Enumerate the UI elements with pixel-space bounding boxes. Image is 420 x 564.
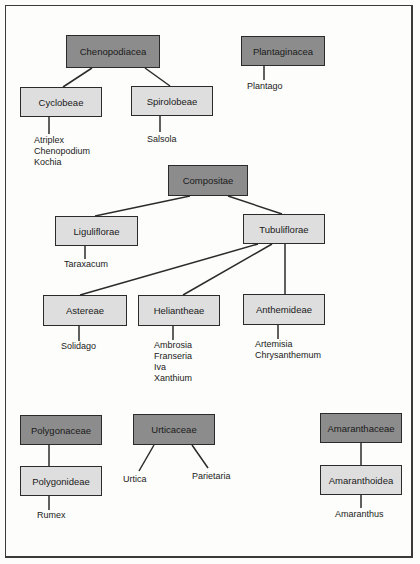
node-astereae: Astereae [43, 295, 127, 326]
genus-label: Chenopodium [34, 146, 90, 157]
node-compositae: Compositae [168, 165, 248, 196]
genera-list-polygonideae: Rumex [37, 510, 66, 521]
node-label: Polygonaceae [31, 425, 91, 436]
genera-list-amaranthoidea: Amaranthus [335, 509, 384, 520]
genus-label: Ambrosia [154, 340, 192, 351]
node-anthemideae: Anthemideae [243, 294, 325, 325]
genus-label: Salsola [147, 134, 177, 145]
node-chenopodiacea: Chenopodiacea [66, 35, 160, 68]
node-label: Compositae [183, 175, 234, 186]
node-spirolobeae: Spirolobeae [131, 86, 213, 116]
genus-urtica: Urtica [123, 474, 147, 485]
node-polygonideae: Polygonideae [20, 466, 102, 496]
node-amaranthoidea: Amaranthoidea [320, 465, 402, 495]
node-label: Astereae [66, 305, 104, 316]
genera-list-anthemideae: Artemisia Chrysanthemum [255, 339, 321, 361]
genus-label: Artemisia [255, 339, 321, 350]
node-label: Amaranthaceae [327, 423, 394, 434]
node-label: Amaranthoidea [329, 475, 393, 486]
genus-label: Xanthium [154, 373, 192, 384]
node-label: Urticaceae [151, 424, 196, 435]
genus-label: Chrysanthemum [255, 350, 321, 361]
node-plantaginacea: Plantaginacea [241, 36, 325, 66]
node-polygonaceae: Polygonaceae [20, 415, 102, 445]
node-label: Plantaginacea [253, 46, 313, 57]
node-label: Liguliflorae [74, 226, 120, 237]
genus-label: Solidago [61, 341, 96, 352]
node-label: Cyclobeae [39, 97, 84, 108]
genus-label: Taraxacum [64, 259, 108, 270]
genus-label: Franseria [154, 351, 192, 362]
genera-list-cyclobeae: Atriplex Chenopodium Kochia [34, 135, 90, 168]
genera-list-plantaginacea: Plantago [247, 81, 283, 92]
genera-list-heliantheae: Ambrosia Franseria Iva Xanthium [154, 340, 192, 384]
genus-label: Iva [154, 362, 192, 373]
genus-label: Amaranthus [335, 509, 384, 520]
genera-list-liguliflorae: Taraxacum [64, 259, 108, 270]
genus-label: Atriplex [34, 135, 90, 146]
node-label: Spirolobeae [147, 96, 198, 107]
node-label: Polygonideae [32, 476, 90, 487]
genera-list-spirolobeae: Salsola [147, 134, 177, 145]
node-liguliflorae: Liguliflorae [55, 216, 138, 246]
genus-label: Urtica [123, 474, 147, 485]
genus-parietaria: Parietaria [192, 471, 231, 482]
node-label: Tubuliflorae [259, 224, 308, 235]
genus-label: Parietaria [192, 471, 231, 482]
node-cyclobeae: Cyclobeae [20, 87, 102, 117]
node-heliantheae: Heliantheae [138, 295, 220, 326]
node-amaranthaceae: Amaranthaceae [320, 413, 402, 443]
node-label: Heliantheae [154, 305, 205, 316]
node-urticaceae: Urticaceae [133, 414, 215, 445]
genus-label: Plantago [247, 81, 283, 92]
node-tubuliflorae: Tubuliflorae [243, 214, 325, 244]
node-label: Anthemideae [256, 304, 312, 315]
node-label: Chenopodiacea [80, 46, 147, 57]
genus-label: Kochia [34, 157, 90, 168]
genus-label: Rumex [37, 510, 66, 521]
genera-list-astereae: Solidago [61, 341, 96, 352]
